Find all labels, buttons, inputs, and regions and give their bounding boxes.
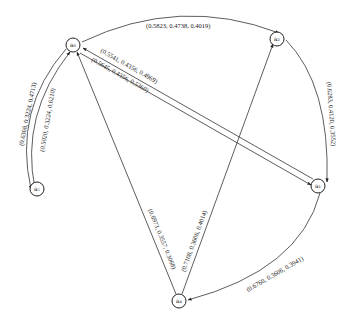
edge-a2-a1 xyxy=(286,40,327,182)
edge-label-a5-a0: (0.5020, 0.3224, 0.6210) xyxy=(38,87,57,152)
node-label-a4: a₄ xyxy=(176,297,183,304)
node-a4[interactable]: a₄ xyxy=(172,294,186,308)
graph-canvas: (0.5823, 0.4738, 0.4019) (0.5541, 0.4356… xyxy=(0,0,356,321)
edge-a0-a2 xyxy=(82,16,279,42)
edge-a4-a0 xyxy=(77,52,176,294)
node-a2[interactable]: a₂ xyxy=(270,32,284,46)
edge-label-a4-a2: (0.7108, 0.3606, 0.4014) xyxy=(179,209,209,272)
node-label-a1: a₁ xyxy=(315,182,321,189)
edge-label-a0-a2: (0.5823, 0.4738, 0.4019) xyxy=(146,22,210,30)
node-a0[interactable]: a₀ xyxy=(66,38,80,52)
edge-a5-a0 xyxy=(32,52,70,189)
node-a1[interactable]: a₁ xyxy=(311,179,325,193)
edge-label-a0-a5: (0.6368, 0.3224, 0.4713) xyxy=(17,82,38,147)
edge-label-a4-a0: (0.6973, 0.3557, 0.3068) xyxy=(146,208,178,271)
node-label-a2: a₂ xyxy=(274,35,281,42)
edge-a4-a2 xyxy=(182,44,273,294)
edge-a1-a0 xyxy=(83,48,313,179)
node-label-a0: a₀ xyxy=(70,41,77,48)
edge-label-a2-a1: (0.6283, 0.4120, 0.3552) xyxy=(325,82,337,147)
node-label-a5: a₅ xyxy=(34,185,41,192)
node-a5[interactable]: a₅ xyxy=(30,182,44,196)
